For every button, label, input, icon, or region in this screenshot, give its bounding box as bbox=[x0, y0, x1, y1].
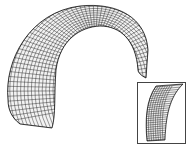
tire-mesh-diagram bbox=[0, 0, 189, 150]
